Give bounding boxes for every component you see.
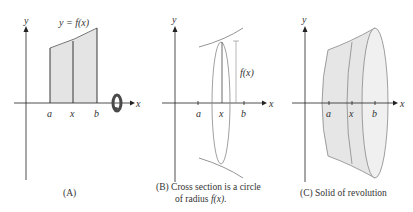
y-axis-arrow-icon: [173, 26, 178, 32]
tick-label-b: b: [372, 108, 377, 119]
curve-label: y = f(x): [58, 17, 90, 29]
x-axis-arrow-icon: [130, 101, 135, 106]
panel-b: x y a x b f(x) (B) Cross section is a ci…: [156, 14, 274, 205]
caption-a: (A): [63, 188, 76, 199]
panel-c: x y a x b (C) Solid of revolution: [292, 14, 405, 199]
y-axis-arrow-icon: [24, 26, 29, 32]
radius-label: f(x): [240, 67, 255, 79]
tick-label-x: x: [69, 108, 75, 119]
y-axis-arrow-icon: [303, 26, 308, 32]
x-axis-arrow-icon: [393, 101, 398, 106]
caption-b-line2: of radius f(x).: [175, 194, 226, 205]
caption-b-line1: (B) Cross section is a circle: [156, 182, 261, 193]
y-axis-label: y: [23, 15, 29, 26]
upper-curve: [199, 28, 243, 47]
tick-label-b: b: [94, 108, 99, 119]
tick-label-b: b: [241, 108, 246, 119]
x-axis-label: x: [268, 98, 274, 109]
lower-curve: [199, 158, 243, 178]
tick-label-x: x: [218, 108, 224, 119]
x-axis-label: x: [135, 98, 141, 109]
tick-label-a: a: [326, 108, 331, 119]
tick-label-a: a: [196, 108, 201, 119]
rotation-arrow-icon: [112, 95, 121, 112]
y-axis-label: y: [301, 14, 307, 25]
x-axis-label: x: [399, 98, 405, 109]
y-axis-label: y: [171, 14, 177, 25]
tick-label-a: a: [47, 108, 52, 119]
panel-a: y x y = f(x) a x b (A): [14, 15, 141, 199]
tick-label-x: x: [348, 108, 354, 119]
caption-c: (C) Solid of revolution: [300, 188, 387, 199]
volume-of-revolution-figure: y x y = f(x) a x b (A) x y a x b: [0, 0, 413, 212]
x-axis-arrow-icon: [262, 101, 267, 106]
